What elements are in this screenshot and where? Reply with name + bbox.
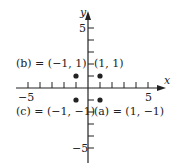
y-axis-label: y	[79, 6, 87, 19]
point-c	[73, 97, 78, 102]
y-tick-label-pos5: 5	[79, 22, 86, 35]
point-a	[97, 97, 102, 102]
x-tick-label-neg5: −5	[18, 91, 34, 104]
point-label-c: (c) = (−1, −1)	[16, 105, 95, 118]
point-label-1-1: (1, 1)	[94, 57, 124, 70]
point-label-b: (b) = (−1, 1)	[16, 57, 87, 70]
x-axis-label: x	[164, 74, 171, 87]
y-tick-label-neg5: −5	[72, 142, 88, 155]
point-b	[73, 73, 78, 78]
point-1-1	[97, 73, 102, 78]
x-tick-label-pos5: 5	[145, 91, 152, 104]
point-label-a: (a) = (1, −1)	[94, 105, 164, 118]
coordinate-plane: y x −5 5 5 −5 (b) = (−1, 1) (1, 1) (c) =…	[0, 0, 178, 168]
